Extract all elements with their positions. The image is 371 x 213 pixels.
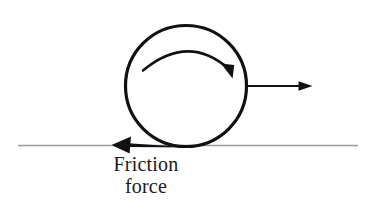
friction-force-label-line2: force [86,175,206,197]
clockwise-rotation-arrow [143,51,234,78]
friction-force-label: Friction force [86,153,206,197]
figure-canvas: Friction force [0,0,371,213]
friction-force-label-line1: Friction [86,153,206,175]
wheel-circle [126,26,247,147]
velocity-arrow [247,81,313,91]
